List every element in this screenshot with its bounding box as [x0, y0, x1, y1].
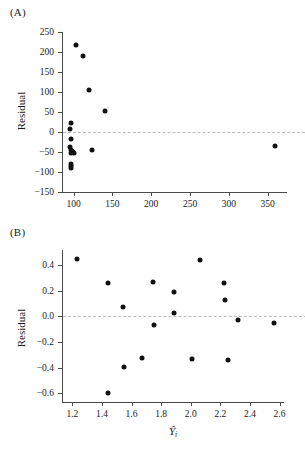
- y-axis-tick: [58, 265, 62, 266]
- residual-plots-figure: (A) Residual −150−100−500501001502002501…: [0, 0, 305, 456]
- data-point: [139, 355, 144, 360]
- y-axis-tick-label: −50: [14, 147, 54, 157]
- data-point: [189, 356, 194, 361]
- y-axis-tick: [58, 32, 62, 33]
- x-axis-tick-label: 100: [67, 199, 81, 209]
- data-point: [74, 256, 79, 261]
- y-axis-line: [62, 250, 63, 402]
- y-axis-tick-label: −150: [14, 187, 54, 197]
- data-point: [69, 121, 74, 126]
- y-axis-tick-label: −100: [14, 167, 54, 177]
- data-point: [80, 54, 85, 59]
- x-axis-tick: [112, 192, 113, 196]
- data-point: [103, 109, 108, 114]
- xlabel-subscript: i: [175, 430, 177, 439]
- data-point: [197, 257, 202, 262]
- x-axis-tick: [268, 192, 269, 196]
- panel-a: (A) Residual −150−100−500501001502002501…: [0, 0, 305, 228]
- x-axis-tick-label: 250: [183, 199, 197, 209]
- x-axis-tick-label: 150: [105, 199, 119, 209]
- x-axis-tick: [74, 192, 75, 196]
- y-axis-tick-label: 0: [14, 127, 54, 137]
- x-axis-tick: [250, 402, 251, 406]
- x-axis-tick: [72, 402, 73, 406]
- y-axis-tick-label: 50: [14, 107, 54, 117]
- y-axis-tick: [58, 192, 62, 193]
- zero-reference-line: [63, 132, 305, 133]
- data-point: [90, 147, 95, 152]
- y-axis-tick: [58, 368, 62, 369]
- x-axis-tick-label: 2.6: [274, 409, 286, 419]
- x-axis-tick: [190, 192, 191, 196]
- y-axis-tick: [58, 72, 62, 73]
- y-axis-tick-label: 100: [14, 87, 54, 97]
- data-point: [222, 280, 227, 285]
- panel-b: (B) Residual −0.6−0.4−0.20.00.20.41.21.4…: [0, 222, 305, 456]
- y-axis-tick-label: 0.4: [14, 260, 54, 270]
- y-axis-tick: [58, 342, 62, 343]
- x-axis-tick: [191, 402, 192, 406]
- x-axis-tick-label: 2.0: [185, 409, 197, 419]
- y-axis-tick-label: −0.2: [14, 337, 54, 347]
- y-axis-tick-label: 150: [14, 67, 54, 77]
- zero-reference-line: [63, 316, 305, 317]
- y-axis-tick-label: −0.6: [14, 388, 54, 398]
- data-point: [273, 143, 278, 148]
- x-axis-tick: [132, 402, 133, 406]
- y-axis-tick: [58, 152, 62, 153]
- data-point: [105, 391, 110, 396]
- x-axis-tick: [161, 402, 162, 406]
- x-axis-tick: [102, 402, 103, 406]
- data-point: [236, 318, 241, 323]
- data-point: [105, 281, 110, 286]
- y-axis-tick: [58, 112, 62, 113]
- y-axis-tick: [58, 172, 62, 173]
- y-axis-line: [62, 32, 63, 192]
- data-point: [87, 87, 92, 92]
- y-axis-tick: [58, 92, 62, 93]
- x-axis-tick-label: 2.4: [244, 409, 256, 419]
- x-axis-line: [62, 192, 287, 193]
- x-axis-tick: [280, 402, 281, 406]
- data-point: [171, 290, 176, 295]
- x-axis-tick-label: 300: [222, 199, 236, 209]
- x-axis-tick-label: 1.2: [66, 409, 78, 419]
- data-point: [69, 166, 74, 171]
- x-axis-tick: [229, 192, 230, 196]
- y-axis-tick: [58, 132, 62, 133]
- data-point: [225, 357, 230, 362]
- data-point: [121, 304, 126, 309]
- panel-b-plot-area: −0.6−0.4−0.20.00.20.41.21.41.61.82.02.22…: [62, 250, 284, 402]
- panel-b-ylabel: Residual: [15, 298, 27, 358]
- x-axis-tick-label: 200: [144, 199, 158, 209]
- panel-a-plot-area: −150−100−5005010015020025010015020025030…: [62, 32, 287, 192]
- y-axis-tick-label: 200: [14, 47, 54, 57]
- data-point: [222, 297, 227, 302]
- panel-b-label: (B): [10, 226, 25, 238]
- data-point: [171, 311, 176, 316]
- x-axis-tick-label: 2.2: [214, 409, 226, 419]
- y-axis-tick: [58, 52, 62, 53]
- data-point: [122, 364, 127, 369]
- panel-b-xlabel: Ŷi: [62, 425, 284, 439]
- y-axis-tick-label: 250: [14, 27, 54, 37]
- y-axis-tick-label: −0.4: [14, 363, 54, 373]
- x-axis-tick-label: 1.6: [126, 409, 138, 419]
- y-axis-tick-label: 0.0: [14, 311, 54, 321]
- data-point: [73, 42, 78, 47]
- y-axis-tick: [58, 316, 62, 317]
- data-point: [68, 136, 73, 141]
- y-axis-tick: [58, 393, 62, 394]
- data-point: [151, 322, 156, 327]
- x-axis-tick: [151, 192, 152, 196]
- x-axis-tick-label: 1.4: [96, 409, 108, 419]
- data-point: [151, 279, 156, 284]
- x-axis-tick: [220, 402, 221, 406]
- y-axis-tick: [58, 291, 62, 292]
- data-point: [67, 126, 72, 131]
- x-axis-tick-label: 1.8: [155, 409, 167, 419]
- data-point: [271, 321, 276, 326]
- panel-a-label: (A): [10, 6, 26, 18]
- y-axis-tick-label: 0.2: [14, 286, 54, 296]
- data-point: [68, 151, 73, 156]
